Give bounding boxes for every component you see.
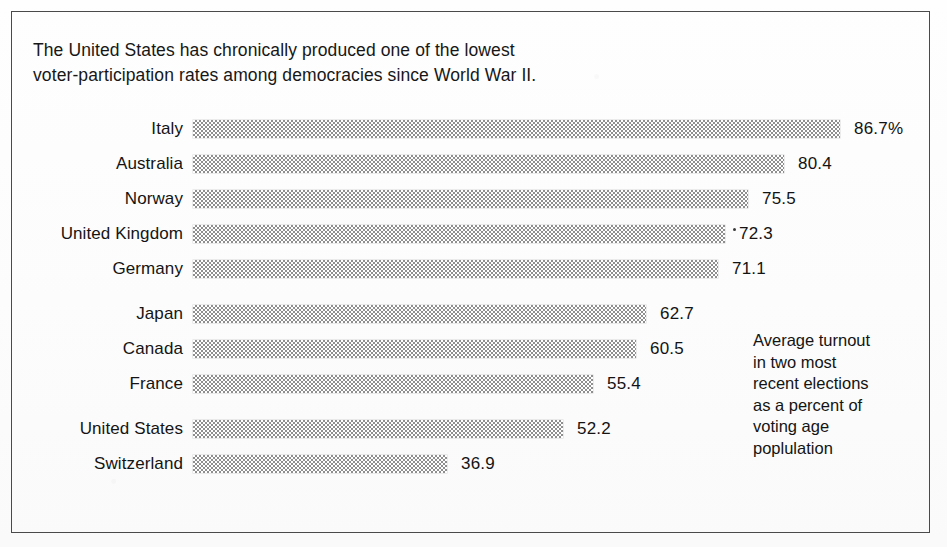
- bar-category-label: Norway: [0, 188, 183, 209]
- bar-row: Australia80.4: [0, 153, 947, 183]
- bar: [193, 375, 593, 393]
- bar-value-label: 55.4: [607, 373, 641, 394]
- bar-value-label: 60.5: [650, 338, 684, 359]
- chart-annotation-line-4: as a percent of: [753, 395, 921, 417]
- bar: [193, 120, 840, 138]
- bar-chart-plot: Italy86.7%Australia80.4Norway75.5United …: [0, 0, 947, 547]
- bar-value-label: 86.7%: [854, 118, 903, 139]
- bar-value-label: 62.7: [660, 303, 694, 324]
- bar-category-label: Italy: [0, 118, 183, 139]
- bar: [193, 305, 646, 323]
- bar-value-label: 52.2: [577, 418, 611, 439]
- bar-value-label: 36.9: [461, 453, 495, 474]
- bar: [193, 155, 784, 173]
- bar-row: Germany71.1: [0, 258, 947, 288]
- bar-value-label: 72.3: [739, 223, 773, 244]
- chart-annotation: Average turnout in two most recent elect…: [753, 330, 921, 459]
- bar-category-label: France: [0, 373, 183, 394]
- bar: [193, 260, 718, 278]
- bar-row: United Kingdom72.3: [0, 223, 947, 253]
- bar-category-label: Japan: [0, 303, 183, 324]
- bar-row: Japan62.7: [0, 303, 947, 333]
- bar-category-label: Canada: [0, 338, 183, 359]
- chart-figure: The United States has chronically produc…: [0, 0, 947, 547]
- chart-annotation-line-2: in two most: [753, 352, 921, 374]
- bar-row: Norway75.5: [0, 188, 947, 218]
- chart-annotation-line-5: voting age: [753, 416, 921, 438]
- chart-annotation-line-3: recent elections: [753, 373, 921, 395]
- bar-category-label: Germany: [0, 258, 183, 279]
- bar-category-label: Switzerland: [0, 453, 183, 474]
- bar-category-label: United Kingdom: [0, 223, 183, 244]
- bar: [193, 420, 563, 438]
- bar: [193, 190, 748, 208]
- bar: [193, 225, 725, 243]
- scan-artifact-dot: [733, 228, 736, 231]
- bar-category-label: Australia: [0, 153, 183, 174]
- bar-row: Italy86.7%: [0, 118, 947, 148]
- chart-annotation-line-6: poplulation: [753, 438, 921, 460]
- bar-value-label: 75.5: [762, 188, 796, 209]
- bar: [193, 340, 636, 358]
- bar-category-label: United States: [0, 418, 183, 439]
- bar-value-label: 71.1: [732, 258, 766, 279]
- chart-annotation-line-1: Average turnout: [753, 330, 921, 352]
- bar-value-label: 80.4: [798, 153, 832, 174]
- bar: [193, 455, 447, 473]
